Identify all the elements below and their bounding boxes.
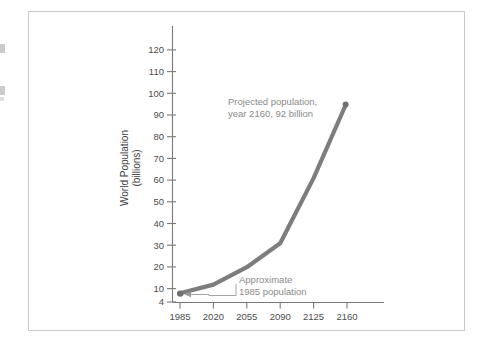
- y-axis-title: World Population (billions): [119, 130, 142, 206]
- data-point-2160: [343, 102, 349, 108]
- x-tick-label-2020: 2020: [203, 311, 224, 322]
- population-line-chart: 4 10 20 30 40 50 60 70 80 90 100 110 120…: [0, 0, 488, 350]
- y-tick-label-100: 100: [148, 88, 164, 99]
- y-axis-tick-labels: 4 10 20 30 40 50 60 70 80 90 100 110 120: [148, 44, 164, 307]
- y-tick-label-70: 70: [153, 153, 164, 164]
- x-tick-label-2125: 2125: [303, 311, 324, 322]
- data-point-1985: [177, 290, 183, 296]
- annotation-projected-line2: year 2160, 92 billion: [228, 108, 313, 119]
- population-data-line: [180, 107, 345, 294]
- y-tick-label-50: 50: [153, 196, 164, 207]
- y-axis-title-line2: (billions): [131, 149, 142, 186]
- y-tick-label-90: 90: [153, 109, 164, 120]
- y-tick-label-40: 40: [153, 218, 164, 229]
- y-axis-ticks: [167, 50, 176, 302]
- y-axis-title-line1: World Population: [119, 130, 130, 206]
- y-tick-label-60: 60: [153, 174, 164, 185]
- y-tick-label-4: 4: [159, 296, 164, 307]
- x-tick-label-2160: 2160: [336, 311, 357, 322]
- annotation-projected-population: Projected population, year 2160, 92 bill…: [228, 96, 317, 119]
- annotation-approximate-line2: 1985 population: [239, 286, 307, 297]
- annotation-approximate-line1: Approximate: [239, 274, 292, 285]
- y-tick-label-10: 10: [153, 283, 164, 294]
- y-tick-label-80: 80: [153, 131, 164, 142]
- x-tick-label-2055: 2055: [236, 311, 257, 322]
- y-tick-label-110: 110: [149, 66, 164, 77]
- y-tick-label-30: 30: [153, 240, 164, 251]
- x-axis-tick-labels: 1985 2020 2055 2090 2125 2160: [169, 311, 357, 322]
- y-tick-label-20: 20: [153, 261, 164, 272]
- x-tick-label-1985: 1985: [169, 311, 190, 322]
- y-tick-label-120: 120: [148, 44, 164, 55]
- x-tick-label-2090: 2090: [270, 311, 291, 322]
- annotation-projected-line1: Projected population,: [228, 96, 317, 107]
- x-axis-ticks: [180, 303, 347, 309]
- figure-root: 4 10 20 30 40 50 60 70 80 90 100 110 120…: [0, 0, 488, 350]
